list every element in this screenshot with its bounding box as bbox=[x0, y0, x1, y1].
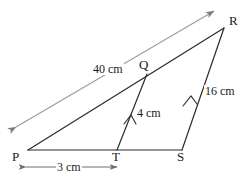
measure-label-pt: 3 cm bbox=[56, 161, 82, 173]
measure-label-pr: 40 cm bbox=[92, 63, 124, 75]
vertex-label-s: S bbox=[177, 150, 184, 163]
parallel-marker-sr bbox=[183, 96, 197, 106]
geometry-figure: P T S Q R 40 cm 4 cm 16 cm 3 cm bbox=[0, 0, 252, 179]
parallel-marker-qt bbox=[124, 115, 136, 124]
vertex-label-p: P bbox=[12, 150, 19, 163]
measure-label-sr: 16 cm bbox=[204, 85, 236, 97]
measure-label-qt: 4 cm bbox=[136, 107, 162, 119]
segment-pr bbox=[28, 28, 224, 150]
vertex-label-t: T bbox=[112, 150, 120, 163]
vertex-label-q: Q bbox=[139, 58, 148, 71]
vertex-label-r: R bbox=[229, 14, 238, 27]
